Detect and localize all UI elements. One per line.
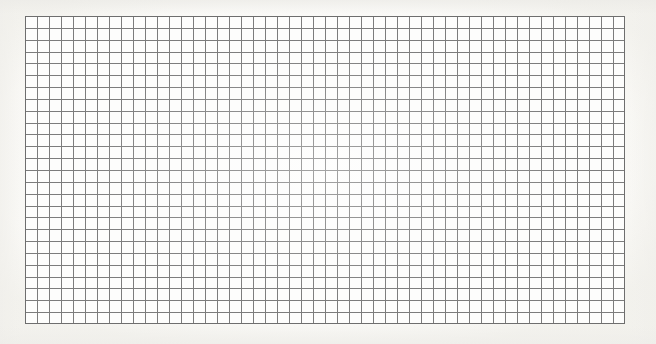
page-canvas xyxy=(0,0,656,344)
graph-paper-grid xyxy=(25,16,625,324)
grid-lines xyxy=(25,16,625,324)
